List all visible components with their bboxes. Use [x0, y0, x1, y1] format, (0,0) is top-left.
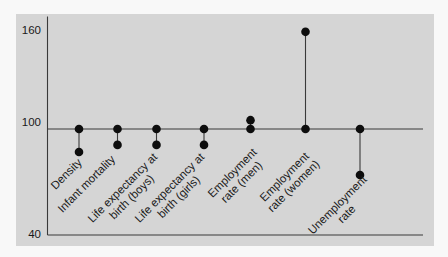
y-tick-label-160: 160 — [22, 24, 41, 36]
markers — [75, 28, 365, 180]
category-label-employment-rate-women: Employmentrate (women) — [256, 148, 322, 214]
reference-point-density — [75, 125, 84, 134]
stems — [79, 32, 360, 175]
y-tick-label-100: 100 — [22, 116, 41, 128]
value-point-density — [75, 148, 84, 157]
reference-point-employment-rate-men — [246, 125, 255, 134]
reference-point-unemployment-rate — [356, 125, 365, 134]
reference-point-infant-mortality — [113, 125, 122, 134]
category-label-line: Unemployment — [306, 173, 370, 237]
dot-stem-chart: 40100160 DensityInfant mortalityLife exp… — [0, 0, 448, 257]
reference-point-life-expectancy-at-birth-boys — [152, 125, 161, 134]
value-point-life-expectancy-at-birth-boys — [152, 141, 161, 150]
value-point-employment-rate-women — [301, 28, 310, 37]
y-tick-label-40: 40 — [28, 228, 41, 240]
reference-point-employment-rate-women — [301, 125, 310, 134]
value-point-employment-rate-men — [246, 116, 255, 125]
value-point-infant-mortality — [113, 141, 122, 150]
value-point-life-expectancy-at-birth-girls — [200, 141, 209, 150]
reference-point-life-expectancy-at-birth-girls — [200, 125, 209, 134]
category-labels: DensityInfant mortalityLife expectancy a… — [48, 145, 378, 245]
category-label-employment-rate-men: Employmentrate (men) — [205, 145, 268, 208]
